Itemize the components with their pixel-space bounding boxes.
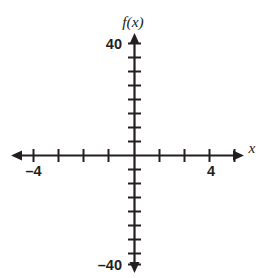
- x-axis-tick-label-left: –4: [25, 163, 41, 179]
- x-axis-tick-label-right: 4: [207, 163, 215, 179]
- coordinate-plane-svg: f(x) x 40 –40 –4 4: [0, 0, 272, 278]
- y-axis-tick-label-top: 40: [106, 36, 122, 52]
- y-axis-label: f(x): [122, 13, 144, 31]
- x-axis-left-arrow-icon: [11, 151, 22, 161]
- x-axis-label: x: [248, 139, 256, 156]
- y-axis-tick-label-bottom: –40: [98, 257, 122, 273]
- y-axis-top-arrow-icon: [130, 33, 140, 44]
- coordinate-plane-figure: f(x) x 40 –40 –4 4: [0, 0, 272, 278]
